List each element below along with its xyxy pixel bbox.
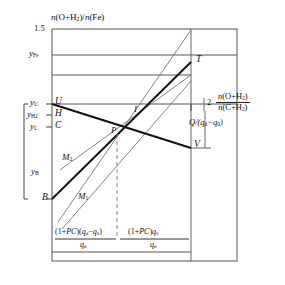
y-tick-label-u: yU: [30, 98, 38, 108]
diagram-svg: [0, 0, 285, 285]
y-tick-label-h2: yH2: [27, 110, 38, 120]
point-label-c: C: [55, 121, 61, 131]
annotation-q-over-qd-q0: Q/(qd−q0): [189, 118, 223, 128]
annotation-bottom-left-denominator: qd: [80, 241, 86, 250]
curve-label-m1: M1: [78, 192, 88, 202]
y-tick-label-fe: yFe: [29, 49, 39, 59]
x-tick-2: 2: [207, 98, 211, 107]
y-tick-label-c: yC: [30, 122, 38, 132]
x-axis-label: n(O+H2) n(C+H2): [216, 92, 250, 112]
point-label-u: U: [55, 97, 62, 107]
y-axis-label: n(O+H2)/n(Fe): [51, 13, 104, 23]
annotation-bottom-right-numerator: (1+PC)q0: [128, 228, 159, 237]
point-label-v: V: [194, 140, 200, 150]
point-label-h: H: [55, 109, 62, 119]
curve-label-m2: M2: [62, 153, 72, 163]
line-u-p-v: [52, 104, 191, 148]
point-label-b: B: [42, 193, 48, 203]
annotation-bottom-left-numerator: (1+PC)(qd−q0): [55, 228, 102, 237]
point-label-i: I: [134, 105, 137, 114]
annotation-bottom-right-denominator: qd: [150, 241, 156, 250]
point-label-t: T: [196, 55, 201, 65]
figure-canvas: n(O+H2)/n(Fe) 1.5 yFe yU yH2 yC yB U H C…: [0, 0, 285, 285]
line-b-p-t: [52, 62, 191, 199]
point-label-p: P: [111, 126, 117, 135]
y-tick-label-b: yB: [31, 167, 39, 177]
y-tick-1-5: 1.5: [34, 24, 45, 33]
